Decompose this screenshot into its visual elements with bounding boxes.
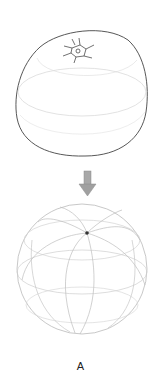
pole-dot <box>85 231 89 235</box>
figure-canvas <box>0 0 161 382</box>
orange-sketch <box>16 31 147 156</box>
wireframe-sphere <box>17 204 147 334</box>
panel-label: A <box>0 359 161 373</box>
stem-icon <box>63 38 94 63</box>
down-arrow-icon <box>79 171 96 196</box>
